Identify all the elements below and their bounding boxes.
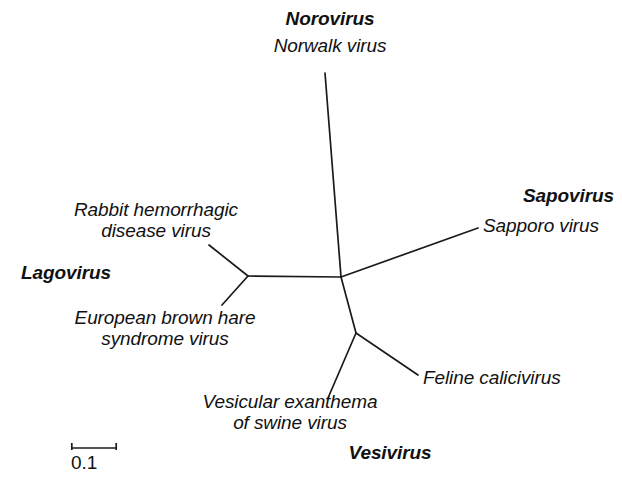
genus-label-norovirus: Norovirus <box>230 9 430 30</box>
taxon-label-norwalk-virus: Norwalk virus <box>230 36 430 57</box>
scale-bar-label-text: 0.1 <box>71 452 97 473</box>
branch-center-to-lagovirus-node <box>248 276 341 277</box>
taxon-label-european-brown-hare-syndrome-virus: European brown hare syndrome virus <box>60 308 270 349</box>
taxon-label-rabbit-hemorrhagic-disease-virus: Rabbit hemorrhagic disease virus <box>60 200 252 241</box>
genus-label-sapovirus-text: Sapovirus <box>523 185 614 206</box>
branch-center-to-vesivirus-node <box>341 277 356 333</box>
taxon-label-sapporo-virus-text: Sapporo virus <box>483 215 599 236</box>
branch-norovirus <box>325 73 341 277</box>
taxon-label-rhdv-line2: disease virus <box>60 221 252 242</box>
taxon-label-feline-calicivirus-text: Feline calicivirus <box>423 367 561 388</box>
branch-vesicular-exanthema-of-swine-virus <box>328 333 356 398</box>
taxon-label-rhdv-line1: Rabbit hemorrhagic <box>60 200 252 221</box>
taxon-label-ebhsv-line1: European brown hare <box>60 308 270 329</box>
branch-rabbit-hemorrhagic-disease-virus <box>209 245 248 276</box>
taxon-label-norwalk-virus-text: Norwalk virus <box>274 35 387 56</box>
genus-label-lagovirus: Lagovirus <box>21 263 111 284</box>
branch-feline-calicivirus <box>356 333 418 375</box>
taxon-label-ebhsv-line2: syndrome virus <box>60 329 270 350</box>
genus-label-vesivirus: Vesivirus <box>310 443 470 464</box>
genus-label-lagovirus-text: Lagovirus <box>21 262 111 283</box>
branch-european-brown-hare-syndrome-virus <box>222 276 248 305</box>
genus-label-sapovirus: Sapovirus <box>320 186 614 207</box>
scale-bar-label: 0.1 <box>71 452 97 474</box>
taxon-label-vesicular-exanthema-of-swine-virus: Vesicular exanthema of swine virus <box>185 392 395 433</box>
genus-label-vesivirus-text: Vesivirus <box>349 442 432 463</box>
taxon-label-vesv-line1: Vesicular exanthema <box>185 392 395 413</box>
taxon-label-sapporo-virus: Sapporo virus <box>483 216 599 237</box>
phylogenetic-tree-figure: Norovirus Norwalk virus Sapovirus Sappor… <box>0 0 622 486</box>
taxon-label-vesv-line2: of swine virus <box>185 413 395 434</box>
genus-label-norovirus-text: Norovirus <box>286 8 375 29</box>
taxon-label-feline-calicivirus: Feline calicivirus <box>423 368 561 389</box>
branch-sapovirus <box>341 228 478 277</box>
